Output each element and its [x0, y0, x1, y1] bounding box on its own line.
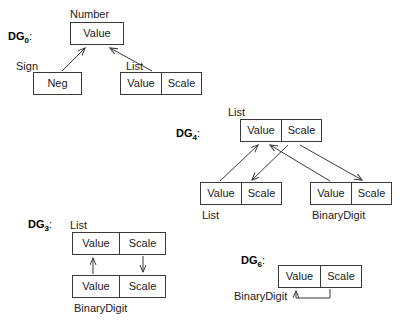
type-label-list-dg4-top: List: [228, 107, 245, 118]
dependency-graph-diagram: DG0: Number Value Sign Neg List Value Sc…: [0, 0, 407, 333]
type-label-binarydigit-dg4: BinaryDigit: [312, 210, 365, 221]
type-label-binarydigit-dg6: BinaryDigit: [234, 291, 287, 302]
cell-scale: Scale: [320, 266, 361, 287]
cell-scale: Scale: [161, 73, 201, 94]
dg4-edge-left-value-to-top-value: [220, 145, 258, 181]
type-label-binarydigit-dg3: BinaryDigit: [74, 303, 127, 314]
cell-scale: Scale: [351, 183, 391, 204]
node-dg4-top[interactable]: Value Scale: [240, 119, 322, 142]
dg4-edge-right-value-to-top-value: [270, 145, 330, 181]
cell-value: Value: [73, 276, 119, 297]
cell-scale: Scale: [281, 120, 321, 141]
type-label-list-dg0: List: [126, 61, 143, 72]
node-dg0-sign[interactable]: Neg: [33, 72, 82, 95]
type-label-list-dg3: List: [70, 220, 87, 231]
node-dg3-top[interactable]: Value Scale: [72, 232, 166, 255]
cell-value: Value: [201, 183, 241, 204]
graph-label-dg3: DG3:: [28, 219, 52, 233]
dg4-edge-top-scale-to-right-scale: [300, 145, 362, 180]
cell-value: Value: [71, 23, 123, 44]
dg6-edge-self-loop: [296, 289, 330, 298]
node-dg4-left[interactable]: Value Scale: [200, 182, 282, 205]
type-label-sign: Sign: [16, 61, 38, 72]
node-dg3-bottom[interactable]: Value Scale: [72, 275, 166, 298]
cell-neg: Neg: [34, 73, 81, 94]
cell-value: Value: [279, 266, 320, 287]
graph-label-dg0: DG0:: [8, 31, 32, 45]
cell-scale: Scale: [241, 183, 281, 204]
node-dg0-list[interactable]: Value Scale: [120, 72, 202, 95]
node-dg6[interactable]: Value Scale: [278, 265, 362, 288]
type-label-list-dg4-left: List: [202, 210, 219, 221]
cell-value: Value: [121, 73, 161, 94]
cell-value: Value: [73, 233, 119, 254]
graph-label-dg4: DG4:: [176, 128, 200, 142]
dg0-edge-sign-to-root: [62, 48, 85, 71]
type-label-number: Number: [70, 9, 109, 20]
cell-value: Value: [311, 183, 351, 204]
graph-label-dg6: DG6:: [241, 255, 265, 269]
dg4-edge-top-scale-to-left-scale: [252, 145, 288, 180]
node-dg4-right[interactable]: Value Scale: [310, 182, 392, 205]
node-dg0-root[interactable]: Value: [70, 22, 124, 45]
cell-scale: Scale: [119, 276, 165, 297]
cell-value: Value: [241, 120, 281, 141]
cell-scale: Scale: [119, 233, 165, 254]
